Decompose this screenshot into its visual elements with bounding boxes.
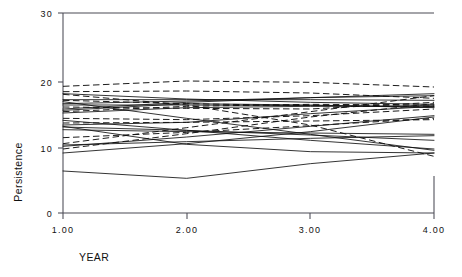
series-line xyxy=(63,81,434,87)
series-line xyxy=(63,91,434,98)
y-tick-labels: 30 20 10 0 xyxy=(40,9,53,219)
x-tick-labels: 1.00 2.00 3.00 4.00 xyxy=(52,225,446,235)
x-axis-title: YEAR xyxy=(79,251,109,263)
series-line xyxy=(63,153,434,178)
x-tick-label-4: 4.00 xyxy=(423,225,446,235)
x-tick-label-2: 2.00 xyxy=(176,225,199,235)
y-tick-label-10: 10 xyxy=(40,144,53,154)
chart-figure: 30 20 10 0 1.00 2.00 3.00 4.00 Persisten… xyxy=(0,0,462,277)
y-axis-title: Persistence xyxy=(12,142,24,201)
x-tick-marks xyxy=(63,213,434,219)
y-tick-label-20: 20 xyxy=(40,78,53,88)
x-tick-label-3: 3.00 xyxy=(299,225,322,235)
series-line xyxy=(63,136,434,145)
series-layer xyxy=(63,81,434,178)
chart-axes xyxy=(63,13,434,213)
y-tick-label-30: 30 xyxy=(40,9,53,19)
persistence-line-chart: 30 20 10 0 1.00 2.00 3.00 4.00 Persisten… xyxy=(0,0,462,277)
y-tick-marks xyxy=(58,13,63,213)
x-tick-label-1: 1.00 xyxy=(52,225,75,235)
y-tick-label-0: 0 xyxy=(47,209,53,219)
